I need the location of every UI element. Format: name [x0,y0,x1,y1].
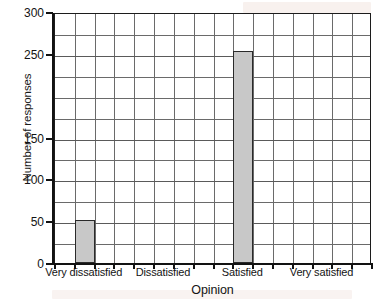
y-axis-tick-mark [46,221,53,223]
bar-chart-figure: Number of responses 300250150100500 Very… [0,0,384,303]
bar [75,220,95,263]
x-axis-tick-mark [331,263,333,269]
plot-area [54,13,371,264]
y-axis-tick-mark [46,179,53,181]
x-axis-tick-label: Dissatisfied [136,266,190,278]
x-axis-tick-mark [173,263,175,269]
bar [233,51,253,263]
y-axis-tick-labels: 300250150100500 [0,0,52,303]
x-axis-tick-mark [113,263,115,269]
y-axis-tick-mark [46,54,53,56]
bars-layer [55,14,370,263]
x-axis-tick-label: Very satisfied [290,266,353,278]
y-axis-tick-mark [46,138,53,140]
y-axis-tick-mark [46,12,53,14]
x-axis-tick-mark [272,263,274,269]
x-axis-tick-label: Very dissatisfied [45,266,122,278]
y-axis-tick-label: 0 [37,258,44,270]
x-axis-tick-mark [312,263,314,269]
y-axis-tick-label: 250 [24,49,44,61]
x-axis-title: Opinion [54,283,371,297]
x-axis-tick-mark [54,263,56,269]
x-axis-tick-mark [133,263,135,269]
scan-artifact-top [243,2,371,13]
y-axis-tick-mark [46,263,53,265]
x-axis-tick-mark [213,263,215,269]
x-axis-tick-mark [232,263,234,269]
x-axis-tick-mark [252,263,254,269]
x-axis-tick-mark [74,263,76,269]
x-axis-tick-mark [371,263,373,269]
x-axis-tick-mark [292,263,294,269]
x-axis-tick-mark [351,263,353,269]
x-axis-tick-mark [193,263,195,269]
y-axis-tick-label: 100 [24,174,44,186]
y-axis-tick-label: 150 [24,133,44,145]
x-axis-tick-label: Satisfied [222,266,263,278]
y-axis-tick-label: 300 [24,7,44,19]
x-axis-tick-mark [94,263,96,269]
y-axis-tick-label: 50 [31,216,44,228]
x-axis-tick-mark [153,263,155,269]
